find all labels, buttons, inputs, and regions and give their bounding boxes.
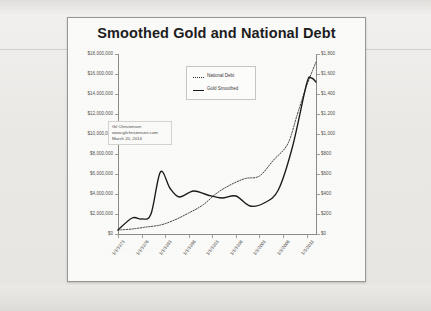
chart-curves bbox=[68, 18, 365, 281]
chart-legend: National Debt Gold Smoothed bbox=[186, 66, 256, 100]
scan-shadow-top bbox=[0, 0, 431, 14]
printed-chart-slide: Smoothed Gold and National Debt $0$2,000… bbox=[67, 17, 366, 282]
legend-label-national-debt: National Debt bbox=[207, 73, 234, 78]
legend-swatch-gold-smoothed bbox=[193, 90, 204, 91]
author-annotation: Gil Christensen www.gilchristensen.com M… bbox=[108, 121, 172, 145]
legend-swatch-national-debt bbox=[193, 77, 204, 78]
annotation-date: March 20, 2014 bbox=[112, 136, 168, 142]
legend-label-gold-smoothed: Gold Smoothed bbox=[207, 86, 238, 91]
scan-shadow-bottom bbox=[0, 285, 431, 311]
